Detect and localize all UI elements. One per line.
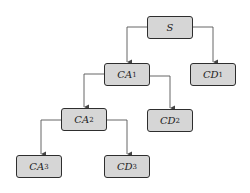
- node-label: CD: [160, 115, 176, 126]
- node-label: CD: [203, 69, 219, 80]
- node-label: CA: [74, 114, 89, 125]
- node-subscript: 3: [133, 163, 137, 171]
- node-subscript: 1: [219, 71, 223, 79]
- node-label: S: [167, 22, 174, 33]
- node-cd2: CD2: [147, 109, 193, 132]
- edge-ca1-ca2: [84, 74, 104, 107]
- node-ca2: CA2: [61, 108, 107, 131]
- node-cd3: CD3: [104, 155, 150, 178]
- node-subscript: 3: [44, 163, 48, 171]
- node-cd1: CD1: [190, 63, 236, 86]
- node-s: S: [147, 16, 193, 39]
- edge-s-cd1: [193, 27, 213, 62]
- node-label: CD: [117, 161, 133, 172]
- node-ca3: CA3: [16, 155, 62, 178]
- node-subscript: 2: [176, 117, 180, 125]
- edge-s-ca1: [127, 27, 147, 62]
- edge-ca2-cd3: [107, 120, 127, 154]
- edge-ca2-ca3: [41, 120, 61, 154]
- node-subscript: 1: [132, 71, 136, 79]
- node-label: CA: [117, 69, 132, 80]
- node-ca1: CA1: [104, 63, 150, 86]
- node-subscript: 2: [89, 116, 93, 124]
- edge-ca1-cd2: [150, 76, 170, 108]
- node-label: CA: [29, 161, 44, 172]
